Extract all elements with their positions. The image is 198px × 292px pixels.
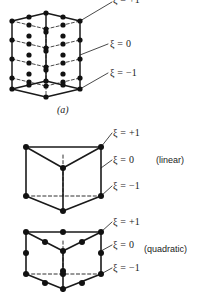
element-quadratic-label-zero: ξ = 0 xyxy=(113,239,134,250)
element-a-label-plus-one: ξ = +1 xyxy=(113,0,140,5)
element-linear-label-plus-one: ξ = +1 xyxy=(113,127,140,138)
element-quadratic-outline xyxy=(26,232,101,292)
element-quadratic-label-plus-one: ξ = +1 xyxy=(113,216,140,227)
element-a-leader-lines xyxy=(80,2,112,89)
element-linear-label-minus-one: ξ = −1 xyxy=(113,180,140,191)
figure-root: ξ = +1 ξ = 0 ξ = −1 (a) ξ = +1 ξ = 0 ξ =… xyxy=(0,0,198,292)
element-linear-leader-lines xyxy=(101,133,112,196)
element-linear-kind-label: (linear) xyxy=(156,155,184,165)
element-a-label-minus-one: ξ = −1 xyxy=(110,67,137,78)
element-quadratic-kind-label: (quadratic) xyxy=(144,244,187,254)
element-a-label-zero: ξ = 0 xyxy=(110,38,131,49)
element-linear-label-zero: ξ = 0 xyxy=(113,154,134,165)
element-linear-outline xyxy=(26,147,101,211)
element-a-caption: (a) xyxy=(57,104,69,115)
element-quadratic-label-minus-one: ξ = −1 xyxy=(113,262,140,273)
